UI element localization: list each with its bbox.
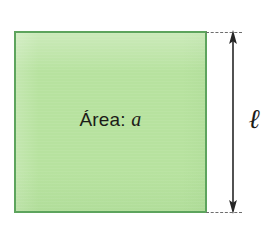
area-label-prefix: Área:: [79, 109, 125, 130]
figure-canvas: Área: a ℓ: [0, 0, 270, 228]
area-label: Área: a: [14, 108, 207, 131]
area-label-variable: a: [131, 108, 141, 130]
dimension-arrow-icon: [224, 28, 242, 216]
length-label: ℓ: [242, 104, 266, 134]
